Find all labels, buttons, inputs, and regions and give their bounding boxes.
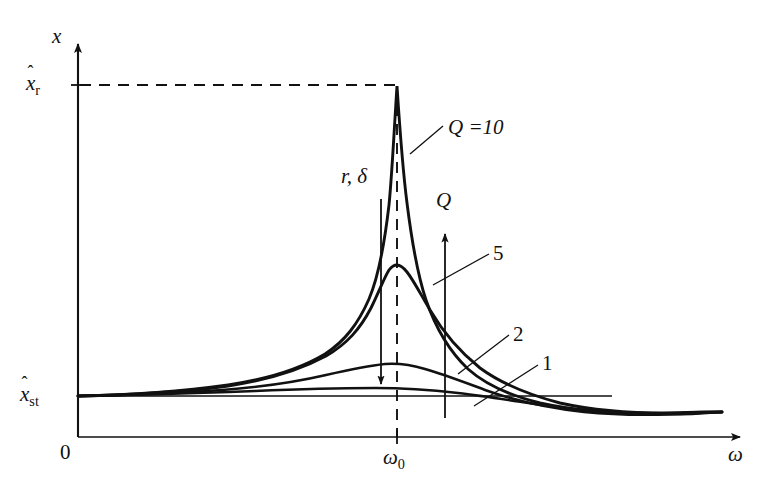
- x-st-subscript: st: [29, 393, 39, 409]
- x-r-hat-group: ˆx: [26, 73, 35, 94]
- curve-q-5: [78, 265, 722, 413]
- curve-label-q-2: 2: [513, 324, 524, 345]
- y-tick-label-x-r: ˆxr: [26, 73, 40, 97]
- x-tick-label-omega0: ω0: [383, 447, 405, 471]
- x-axis-label: ω: [728, 444, 743, 465]
- omega0-base: ω: [383, 445, 398, 469]
- plot-area: [0, 0, 779, 495]
- leader-line-q-10: [410, 126, 443, 154]
- omega0-subscript: 0: [398, 456, 405, 472]
- leader-line-q-5: [433, 254, 489, 285]
- x-r-subscript: r: [35, 82, 40, 98]
- x-st-hat-group: ˆx: [20, 384, 29, 405]
- damping-label: r, δ: [341, 166, 367, 187]
- quality-factor-label: Q: [436, 190, 451, 211]
- curve-label-q-5: 5: [493, 243, 504, 264]
- y-tick-label-x-st: ˆxst: [20, 384, 39, 408]
- resonance-curve-figure: x ω 0 ˆxr ˆxst ω0 Q =10 5 2 1 r, δ Q: [0, 0, 779, 495]
- circumflex-icon: ˆ: [22, 375, 28, 393]
- circumflex-icon: ˆ: [28, 64, 34, 82]
- curve-label-q-1: 1: [542, 353, 553, 374]
- y-axis-label: x: [52, 26, 61, 47]
- curve-label-q-10: Q =10: [448, 117, 504, 138]
- origin-label: 0: [60, 442, 71, 463]
